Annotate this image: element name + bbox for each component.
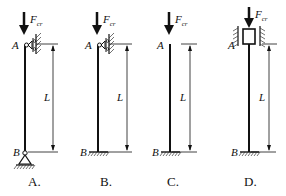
bottom-point-label: B — [80, 146, 87, 158]
top-point-label: A — [11, 39, 19, 51]
column-a: Fcr A L B — [11, 12, 58, 189]
sliding-sleeve-support-icon — [233, 26, 265, 47]
column-b: Fcr A L B — [80, 12, 132, 189]
force-arrow-icon — [164, 12, 174, 35]
length-label: L — [43, 91, 50, 103]
roller-guide-support-icon — [98, 33, 115, 54]
length-label: L — [258, 91, 265, 103]
buckling-support-diagram: Fcr A L B — [0, 0, 286, 196]
top-point-label: A — [84, 39, 92, 51]
length-dimension — [28, 44, 58, 152]
force-label: Fcr — [174, 13, 188, 28]
bottom-point-label: B — [13, 146, 20, 158]
force-label: Fcr — [102, 13, 116, 28]
bottom-point-label: B — [231, 146, 238, 158]
length-label: L — [116, 91, 123, 103]
length-label: L — [179, 91, 186, 103]
force-label: Fcr — [254, 8, 268, 23]
option-caption: A. — [28, 174, 41, 189]
force-arrow-icon — [92, 12, 102, 35]
force-arrow-icon — [244, 7, 254, 28]
fixed-support-icon — [88, 152, 109, 156]
option-caption: C. — [167, 174, 179, 189]
length-dimension — [100, 44, 132, 152]
option-caption: D. — [244, 174, 257, 189]
fixed-support-icon — [160, 152, 181, 156]
fixed-support-icon — [239, 152, 260, 156]
column-d: Fcr A L B — [227, 7, 277, 189]
force-arrow-icon — [19, 12, 29, 35]
option-caption: B. — [100, 174, 112, 189]
roller-guide-support-icon — [25, 33, 42, 54]
top-point-label: A — [156, 39, 164, 51]
top-point-label: A — [227, 39, 235, 51]
force-label: Fcr — [29, 13, 43, 28]
bottom-point-label: B — [152, 146, 159, 158]
column-c: Fcr A L B C. — [152, 12, 197, 189]
